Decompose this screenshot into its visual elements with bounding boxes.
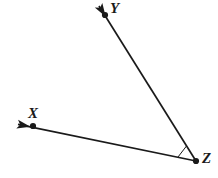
ray-zy [99, 6, 196, 161]
point-dot-z [193, 158, 199, 164]
angle-diagram-svg [0, 0, 218, 178]
angle-marker-z [178, 146, 187, 157]
point-label-x: X [28, 106, 38, 121]
ray-zx [18, 124, 196, 161]
point-label-y: Y [110, 1, 119, 16]
point-dot-x [30, 123, 36, 129]
point-dot-y [102, 12, 108, 18]
point-label-z: Z [202, 151, 211, 166]
geometry-figure: Y X Z [0, 0, 218, 178]
